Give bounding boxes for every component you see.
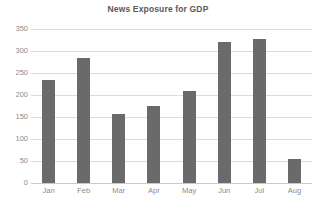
- bar: [42, 80, 55, 183]
- bar: [183, 91, 196, 183]
- bar: [218, 42, 231, 183]
- x-axis-tick-label: Mar: [101, 186, 136, 196]
- x-axis-tick-label: Jun: [207, 186, 242, 196]
- bar-chart: News Exposure for GDP 050100150200250300…: [0, 0, 316, 205]
- x-axis-tick-label: Aug: [277, 186, 312, 196]
- gridline: [31, 117, 312, 118]
- y-axis-tick-label: 150: [2, 113, 28, 121]
- y-axis-tick-label: 350: [2, 25, 28, 33]
- plot-area: [31, 29, 312, 183]
- gridline: [31, 51, 312, 52]
- x-axis-tick-label: May: [172, 186, 207, 196]
- gridline: [31, 73, 312, 74]
- gridline: [31, 161, 312, 162]
- bar: [288, 159, 301, 183]
- y-axis-tick-label: 50: [2, 157, 28, 165]
- x-axis-tick-label: Jul: [242, 186, 277, 196]
- bar: [253, 39, 266, 183]
- y-axis-tick-label: 200: [2, 91, 28, 99]
- x-axis-tick-label: Jan: [31, 186, 66, 196]
- bar: [77, 58, 90, 183]
- y-axis-tick-label: 100: [2, 135, 28, 143]
- y-axis: 050100150200250300350: [0, 0, 28, 205]
- gridline: [31, 29, 312, 30]
- chart-title: News Exposure for GDP: [0, 4, 316, 14]
- gridline: [31, 139, 312, 140]
- x-axis-baseline: [31, 183, 312, 184]
- x-axis-tick-label: Feb: [66, 186, 101, 196]
- x-axis: JanFebMarAprMayJunJulAug: [31, 186, 312, 200]
- y-axis-tick-label: 250: [2, 69, 28, 77]
- gridline: [31, 95, 312, 96]
- y-axis-tick-label: 300: [2, 47, 28, 55]
- bar: [112, 114, 125, 183]
- bar: [147, 106, 160, 183]
- y-axis-tick-label: 0: [2, 179, 28, 187]
- x-axis-tick-label: Apr: [136, 186, 171, 196]
